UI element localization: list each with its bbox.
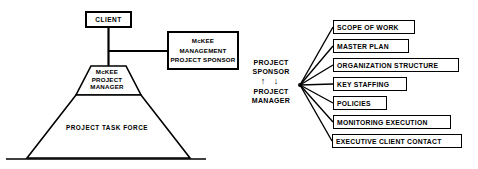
hub-fan-lines — [300, 27, 333, 141]
hub-label: PROJECT SPONSOR ↑ ↓ PROJECT MANAGER — [243, 58, 299, 105]
deliverable-box[interactable]: MONITORING EXECUTION — [333, 115, 451, 129]
sponsor-box-line-3: PROJECT SPONSOR — [171, 56, 236, 63]
project-manager-label: McKEE PROJECT MANAGER — [77, 68, 137, 91]
project-manager-line-1: McKEE — [96, 68, 118, 75]
client-label: CLIENT — [95, 16, 121, 24]
deliverable-box[interactable]: POLICIES — [333, 96, 387, 110]
deliverable-label: KEY STAFFING — [337, 81, 389, 88]
deliverable-label: MONITORING EXECUTION — [337, 119, 428, 126]
deliverable-box[interactable]: SCOPE OF WORK — [333, 20, 415, 34]
org-structure-diagram: CLIENT McKEE MANAGEMENT PROJECT SPONSOR … — [0, 0, 478, 169]
hub-line-4: MANAGER — [252, 97, 290, 104]
project-manager-line-3: MANAGER — [90, 83, 123, 90]
sponsor-box-line-2: MANAGEMENT — [179, 47, 226, 54]
mckee-management-sponsor-box[interactable]: McKEE MANAGEMENT PROJECT SPONSOR — [167, 31, 239, 70]
deliverable-box[interactable]: KEY STAFFING — [333, 77, 407, 91]
project-manager-line-2: PROJECT — [92, 76, 123, 83]
deliverable-box[interactable]: MASTER PLAN — [333, 39, 409, 53]
deliverable-label: EXECUTIVE CLIENT CONTACT — [336, 138, 442, 145]
deliverable-box[interactable]: ORGANIZATION STRUCTURE — [333, 58, 459, 72]
deliverable-label: POLICIES — [337, 100, 371, 107]
sponsor-box-line-1: McKEE — [192, 37, 214, 44]
deliverable-box[interactable]: EXECUTIVE CLIENT CONTACT — [332, 134, 462, 148]
up-down-arrows-icon: ↑ ↓ — [243, 76, 299, 86]
deliverable-label: ORGANIZATION STRUCTURE — [337, 62, 438, 69]
deliverable-label: MASTER PLAN — [337, 43, 389, 50]
hub-line-2: SPONSOR — [252, 68, 289, 75]
project-task-force-label: PROJECT TASK FORCE — [47, 124, 167, 131]
deliverable-label: SCOPE OF WORK — [337, 24, 399, 31]
client-box[interactable]: CLIENT — [85, 11, 132, 28]
hub-line-3: PROJECT — [253, 88, 288, 95]
hub-line-1: PROJECT — [253, 59, 288, 66]
